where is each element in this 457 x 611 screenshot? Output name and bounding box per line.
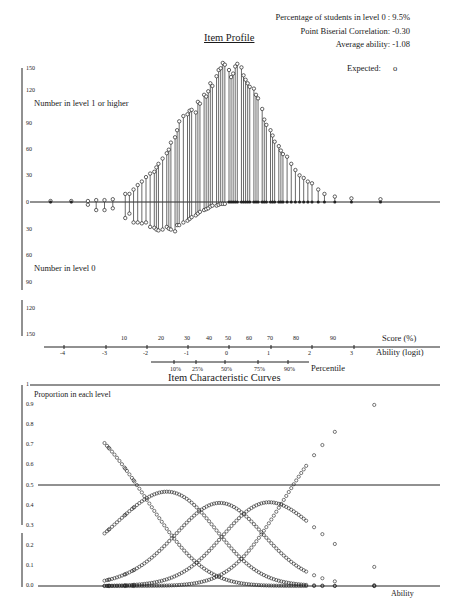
chart-canvas xyxy=(0,0,457,611)
